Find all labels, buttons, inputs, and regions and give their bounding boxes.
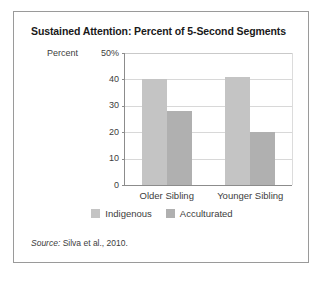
y-axis-tick: [122, 159, 125, 160]
source-citation: Silva et al., 2010.: [60, 238, 128, 248]
bar-acculturated-younger-sibling: [250, 132, 275, 185]
bar-indigenous-younger-sibling: [225, 77, 250, 185]
y-axis-tick: [122, 185, 125, 186]
bar-acculturated-older-sibling: [167, 111, 192, 185]
figure-card: Sustained Attention: Percent of 5-Second…: [13, 11, 309, 263]
y-axis-tick-label: 50%: [89, 49, 119, 58]
y-axis-tick-label: 10: [89, 154, 119, 163]
legend-swatch-icon: [166, 209, 175, 218]
plot-area: Older SiblingYounger Sibling: [124, 53, 292, 186]
y-axis-tick-label: 40: [89, 75, 119, 84]
y-axis-tick: [122, 106, 125, 107]
bar-group: [142, 53, 192, 185]
source-label: Source:: [31, 238, 60, 248]
y-axis-tick: [122, 53, 125, 54]
source-note: Source: Silva et al., 2010.: [31, 238, 128, 248]
y-axis-title: Percent: [47, 48, 78, 58]
bar-indigenous-older-sibling: [142, 79, 167, 185]
plot-right-edge: [292, 53, 293, 185]
legend-label: Indigenous: [105, 208, 151, 219]
chart-legend: IndigenousAcculturated: [14, 208, 310, 219]
y-axis-tick-label: 0: [89, 181, 119, 190]
y-axis-tick-label: 30: [89, 101, 119, 110]
y-axis-tick: [122, 132, 125, 133]
legend-swatch-icon: [91, 209, 100, 218]
y-axis-tick: [122, 79, 125, 80]
legend-label: Acculturated: [180, 208, 233, 219]
chart-canvas: Percent 01020304050% Older SiblingYounge…: [14, 12, 310, 264]
y-axis-tick-labels: 01020304050%: [86, 53, 119, 185]
legend-item-indigenous: Indigenous: [91, 208, 151, 219]
y-axis-tick-label: 20: [89, 128, 119, 137]
bar-group: [225, 53, 275, 185]
x-axis-tick-label: Older Sibling: [125, 190, 209, 201]
legend-item-acculturated: Acculturated: [166, 208, 233, 219]
x-axis-tick-label: Younger Sibling: [209, 190, 293, 201]
